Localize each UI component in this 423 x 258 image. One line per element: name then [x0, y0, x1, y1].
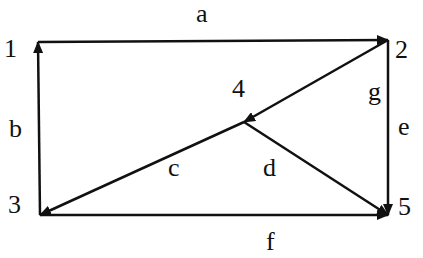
edge-label-d: d — [263, 153, 276, 182]
node-label-5: 5 — [398, 192, 411, 221]
edges-layer — [38, 40, 388, 215]
node-label-4: 4 — [232, 74, 245, 103]
directed-graph-diagram: abcdefg12345 — [0, 0, 423, 258]
node-label-2: 2 — [395, 35, 408, 64]
edge-c-arrow — [40, 122, 244, 215]
edge-g-arrow — [244, 40, 388, 122]
node-label-3: 3 — [8, 190, 21, 219]
labels-layer: abcdefg12345 — [4, 0, 411, 256]
edge-label-a: a — [196, 0, 208, 28]
edge-label-c: c — [168, 153, 180, 182]
edge-label-b: b — [9, 114, 22, 143]
edge-a-arrow — [38, 40, 388, 42]
edge-label-e: e — [398, 112, 410, 141]
edge-b-arrow — [38, 42, 40, 215]
node-label-1: 1 — [4, 34, 17, 63]
edge-label-g: g — [368, 77, 381, 106]
edge-label-f: f — [266, 227, 275, 256]
